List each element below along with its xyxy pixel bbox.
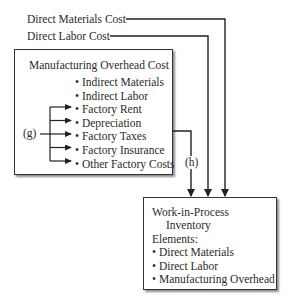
wip-title-line1: Work-in-Process: [152, 206, 229, 219]
wip-elements-list: Direct Materials Direct Labor Manufactur…: [152, 246, 275, 287]
wip-element-item: Manufacturing Overhead: [152, 273, 275, 287]
h-label: (h): [184, 156, 199, 169]
g-bracket-arrows: [15, 50, 174, 176]
direct-labor-cost-label: Direct Labor Cost: [27, 30, 110, 43]
wip-element-item: Direct Materials: [152, 246, 275, 260]
g-label: (g): [23, 127, 36, 140]
work-in-process-inventory-box: Work-in-Process Inventory Elements: Dire…: [143, 197, 277, 290]
wip-title-line2: Inventory: [166, 219, 211, 232]
wip-elements-label: Elements:: [152, 233, 198, 246]
wip-element-item: Direct Labor: [152, 260, 275, 274]
direct-materials-cost-label: Direct Materials Cost: [27, 13, 126, 26]
manufacturing-overhead-box: Manufacturing Overhead Cost Indirect Mat…: [14, 49, 173, 175]
